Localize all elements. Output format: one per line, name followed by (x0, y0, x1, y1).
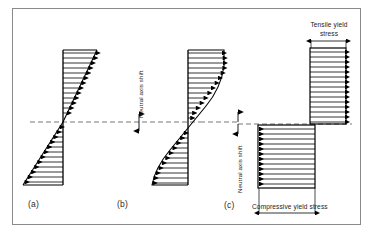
caption-c: (c) (224, 200, 235, 210)
neutral-axis-shift-label-c: Neutral axis shift (236, 145, 243, 193)
tensile-yield-stress-label-line1: Tensile yield (303, 21, 355, 29)
compressive-yield-stress-label: Compressive yield stress (252, 203, 328, 211)
caption-b: (b) (117, 199, 128, 209)
diagram-a-elastic (23, 50, 97, 185)
diagram-c-fully-plastic (238, 40, 346, 214)
neutral-axis-shift-label-b: Neutral axis shift (137, 70, 144, 118)
figure-root: (a) (b) (c) Neutral axis shift Neutral a… (0, 0, 375, 237)
caption-a: (a) (28, 199, 39, 209)
diagram-b-elastic-plastic (139, 50, 224, 185)
tensile-yield-stress-label-line2: stress (303, 30, 355, 38)
tensile-yield-dimension-line (311, 40, 346, 48)
